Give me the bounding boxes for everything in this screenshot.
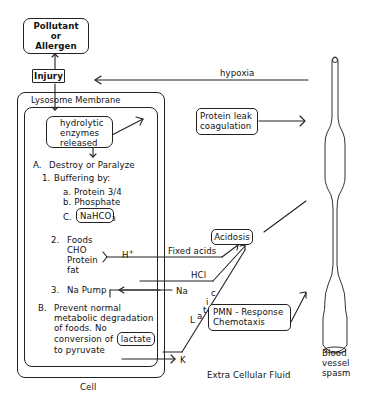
hydrolytic-label: hydrolytic <box>60 118 104 128</box>
nahco3-subscript: 3 <box>111 215 115 223</box>
section-a-label: A. <box>33 160 42 170</box>
injury-node: Injury <box>32 69 65 83</box>
released-label: released <box>60 138 98 148</box>
chemotaxis-label: Chemotaxis <box>213 317 265 327</box>
coagulation-label: coagulation <box>200 121 251 131</box>
blood-vessel-label-1: Blood <box>322 348 347 358</box>
enzymes-label: enzymes <box>60 128 99 138</box>
lysosome-membrane-label: Lysosome Membrane <box>31 95 121 105</box>
item1-text: Buffering by: <box>54 173 110 183</box>
plus-sup: + <box>129 248 135 256</box>
diagram-canvas: Pollutant or Allergen Injury Lysosome Me… <box>0 0 365 398</box>
buffer-phosphate: b. Phosphate <box>63 197 120 207</box>
section-b-line1: Prevent normal <box>54 303 121 313</box>
section-b-line3: of foods. No <box>54 323 107 333</box>
nahco3-value: NaHCO <box>80 211 111 221</box>
food-protein: Protein <box>67 255 98 265</box>
item2-number: 2. <box>51 235 59 245</box>
item1-number: 1. <box>42 173 50 183</box>
cell-label: Cell <box>80 382 96 392</box>
blood-vessel-label-2: vessel <box>322 358 350 368</box>
pmn-response-label: PMN - Response <box>213 307 283 317</box>
nahco3-label: NaHCO3 <box>80 211 116 224</box>
item2-text: Foods <box>67 235 93 245</box>
fixed-acids-label: Fixed acids <box>168 246 216 256</box>
item3-text: Na Pump <box>67 285 106 295</box>
lactate-node: lactate <box>117 332 155 346</box>
k-label: K <box>180 355 186 365</box>
section-b-label: B. <box>38 303 47 313</box>
blood-vessel-label-3: spasm <box>322 368 351 378</box>
section-b-line5: to pyruvate <box>54 345 105 355</box>
or-label: or <box>24 31 88 41</box>
food-fat: fat <box>67 265 79 275</box>
nahco3-node: NaHCO3 <box>76 208 114 223</box>
hcl-label: HCl <box>191 270 206 280</box>
hypoxia-label: hypoxia <box>220 68 254 78</box>
pollutant-allergen-node: Pollutant or Allergen <box>23 18 89 54</box>
item3-number: 3. <box>51 285 59 295</box>
section-a-text: Destroy or Paralyze <box>49 160 135 170</box>
lactic-L: L <box>190 315 195 325</box>
injury-label: Injury <box>33 71 64 81</box>
buffer-c-label: C. <box>63 212 72 222</box>
allergen-label: Allergen <box>24 41 88 51</box>
pollutant-label: Pollutant <box>24 21 88 31</box>
h-plus-label: H+ <box>122 247 134 260</box>
section-b-line4: conversion of <box>54 334 113 344</box>
extra-cellular-fluid-label: Extra Cellular Fluid <box>207 370 290 380</box>
pmn-response-node: PMN - Response Chemotaxis <box>208 304 291 331</box>
protein-leak-label: Protein leak <box>200 111 252 121</box>
acidosis-node: Acidosis <box>211 229 253 245</box>
protein-leak-node: Protein leak coagulation <box>196 108 258 135</box>
na-label: Na <box>176 286 188 296</box>
lactic-c: c <box>211 288 216 298</box>
lactic-a: a <box>197 311 202 321</box>
hydrolytic-enzymes-node: hydrolytic enzymes released <box>46 116 113 148</box>
buffer-protein: a. Protein 3/4 <box>63 187 122 197</box>
acidosis-label: Acidosis <box>212 232 252 242</box>
food-cho: CHO <box>67 245 87 255</box>
lactate-label: lactate <box>118 334 154 344</box>
section-b-line2: metabolic degradation <box>54 313 154 323</box>
